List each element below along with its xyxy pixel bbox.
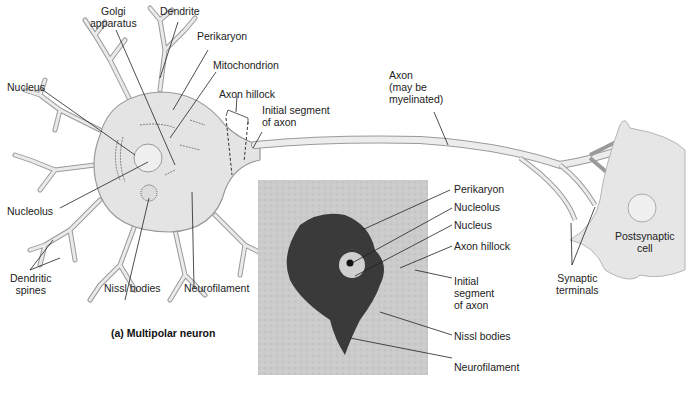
label-initial-segment: Initial segment of axon [262, 104, 330, 128]
micro-label-nucleus: Nucleus [454, 219, 492, 231]
label-dendrite: Dendrite [160, 5, 200, 17]
label-axon-line3: myelinated) [389, 93, 443, 105]
label-dendritic-spines-line2: spines [10, 284, 51, 296]
label-postsynaptic-line2: cell [615, 242, 675, 254]
label-synaptic-terminals-line2: terminals [556, 284, 599, 296]
label-nissl-bodies: Nissl bodies [104, 282, 161, 294]
micro-label-initial-line3: of axon [454, 299, 494, 311]
nucleus-shape [134, 144, 162, 172]
label-initial-segment-line1: Initial segment [262, 104, 330, 116]
label-neurofilament: Neurofilament [184, 282, 249, 294]
label-dendritic-spines-line1: Dendritic [10, 272, 51, 284]
label-synaptic-terminals: Synaptic terminals [556, 272, 599, 296]
label-dendritic-spines: Dendritic spines [10, 272, 51, 296]
label-axon: Axon (may be myelinated) [389, 69, 443, 105]
postsynaptic-nucleus [628, 194, 656, 222]
label-golgi-line1: Golgi [90, 5, 137, 17]
micro-label-initial-line2: segment [454, 287, 494, 299]
micro-label-initial-segment: Initial segment of axon [454, 275, 494, 311]
micro-label-perikaryon: Perikaryon [454, 183, 504, 195]
label-axon-hillock: Axon hillock [219, 88, 275, 100]
label-axon-line2: (may be [389, 81, 443, 93]
micro-label-nissl-bodies: Nissl bodies [454, 330, 511, 342]
label-golgi-line2: apparatus [90, 17, 137, 29]
micro-label-axon-hillock: Axon hillock [454, 240, 510, 252]
label-synaptic-terminals-line1: Synaptic [556, 272, 599, 284]
label-golgi-apparatus: Golgi apparatus [90, 5, 137, 29]
micro-label-initial-line1: Initial [454, 275, 494, 287]
postsynaptic-cell-shape [570, 121, 685, 279]
label-initial-segment-line2: of axon [262, 116, 330, 128]
label-postsynaptic-line1: Postsynaptic [615, 230, 675, 242]
neuron-illustration [0, 0, 693, 393]
label-postsynaptic-cell: Postsynaptic cell [615, 230, 675, 254]
micro-label-neurofilament: Neurofilament [454, 361, 519, 373]
label-mitochondrion: Mitochondrion [213, 59, 279, 71]
micro-label-nucleolus: Nucleolus [454, 201, 500, 213]
label-perikaryon: Perikaryon [197, 30, 247, 42]
label-nucleolus: Nucleolus [7, 205, 53, 217]
label-axon-line1: Axon [389, 69, 443, 81]
figure-caption: (a) Multipolar neuron [111, 327, 215, 339]
label-nucleus: Nucleus [7, 81, 45, 93]
